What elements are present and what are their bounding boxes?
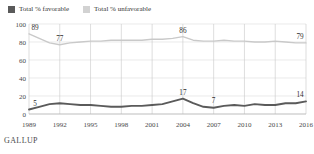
y-tick-label: 0 [23, 111, 27, 119]
y-tick-label: 40 [19, 75, 27, 83]
series-line-favorable [29, 99, 306, 110]
y-axis-ticks: 020406080100 [16, 21, 27, 119]
x-tick-label: 1995 [84, 121, 99, 129]
y-tick-label: 100 [16, 21, 27, 29]
chart-legend: Total % favorable Total % unfavorable [8, 3, 151, 15]
square-swatch-icon [8, 6, 15, 13]
x-tick-label: 2007 [207, 121, 222, 129]
series-lines [29, 34, 306, 110]
legend-label-favorable: Total % favorable [19, 5, 69, 13]
x-axis-ticks: 1989199219951998200120042007201020132016 [22, 121, 314, 129]
gallup-line-chart: Total % favorable Total % unfavorable 02… [0, 0, 314, 154]
y-tick-label: 80 [19, 39, 27, 47]
data-point-label: 79 [296, 33, 304, 41]
x-tick-label: 2013 [268, 121, 283, 129]
x-tick-label: 1992 [53, 121, 68, 129]
data-point-labels: 89778679517714 [31, 24, 304, 108]
x-tick-label: 2010 [237, 121, 252, 129]
series-line-unfavorable [29, 34, 306, 45]
y-tick-label: 60 [19, 57, 27, 65]
legend-label-unfavorable: Total % unfavorable [94, 5, 151, 13]
x-tick-label: 1998 [114, 121, 129, 129]
data-point-label: 17 [179, 89, 187, 97]
data-point-label: 14 [296, 91, 304, 99]
x-tick-label: 2016 [299, 121, 314, 129]
grid-lines [29, 24, 306, 114]
square-swatch-icon [83, 6, 90, 13]
x-tick-label: 2004 [176, 121, 191, 129]
data-point-label: 77 [56, 35, 64, 43]
data-point-label: 86 [179, 27, 187, 35]
legend-item-unfavorable: Total % unfavorable [83, 5, 151, 13]
plot-area: 020406080100 198919921995199820012004200… [0, 18, 314, 130]
x-tick-label: 2001 [145, 121, 160, 129]
data-point-label: 89 [31, 24, 39, 32]
legend-item-favorable: Total % favorable [8, 5, 69, 13]
x-tick-label: 1989 [22, 121, 37, 129]
data-point-label: 7 [212, 97, 216, 105]
chart-svg: 020406080100 198919921995199820012004200… [0, 18, 314, 130]
gallup-brand: GALLUP [4, 136, 38, 145]
y-tick-label: 20 [19, 93, 27, 101]
data-point-label: 5 [33, 100, 37, 108]
